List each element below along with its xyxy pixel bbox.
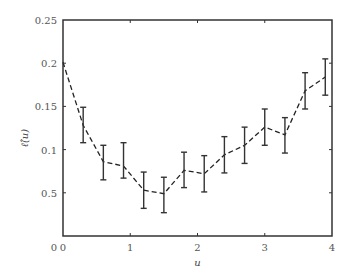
y-tick-label: 0 bbox=[51, 242, 57, 253]
y-tick-label: 0.15 bbox=[35, 101, 57, 112]
x-tick-label: 0 bbox=[60, 242, 66, 253]
error-bar bbox=[242, 127, 248, 163]
error-bar bbox=[282, 118, 288, 153]
x-axis-label: u bbox=[194, 257, 200, 268]
error-bar bbox=[221, 137, 227, 173]
error-bar bbox=[121, 143, 127, 178]
axes-box bbox=[63, 20, 332, 236]
chart: 0123400.50.10.150.20.25 u ℓ̂(u) bbox=[0, 0, 347, 274]
y-tick-label: 0.25 bbox=[35, 15, 57, 26]
plot-area bbox=[63, 20, 332, 236]
error-bar bbox=[80, 107, 86, 142]
y-tick-label: 0.1 bbox=[41, 145, 57, 156]
error-bar bbox=[201, 156, 207, 192]
error-bar bbox=[161, 177, 167, 212]
x-tick-label: 2 bbox=[194, 242, 200, 253]
error-bar bbox=[100, 145, 106, 180]
x-tick-label: 3 bbox=[262, 242, 268, 253]
ticks-layer: 0123400.50.10.150.20.25 bbox=[35, 15, 335, 253]
y-tick-label: 0.2 bbox=[41, 58, 57, 69]
dashed-series-line bbox=[63, 62, 325, 193]
y-axis-label: ℓ̂(u) bbox=[19, 129, 30, 148]
error-bar bbox=[322, 59, 328, 95]
y-tick-label: 0.5 bbox=[41, 188, 57, 199]
error-bar bbox=[302, 73, 308, 109]
x-tick-label: 1 bbox=[127, 242, 133, 253]
error-bar bbox=[181, 152, 187, 187]
x-tick-label: 4 bbox=[329, 242, 335, 253]
error-bar bbox=[262, 109, 268, 145]
series-layer bbox=[63, 59, 328, 213]
